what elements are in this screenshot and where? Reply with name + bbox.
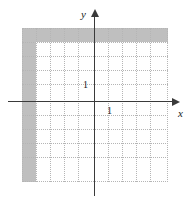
gridline-horizontal <box>22 157 168 158</box>
gridline-vertical <box>78 28 79 182</box>
x-axis-line <box>8 101 174 102</box>
x-axis-unit-tick-label: 1 <box>107 106 112 116</box>
y-axis-line <box>94 16 95 196</box>
gridline-horizontal <box>22 28 168 29</box>
gridline-vertical <box>22 28 23 182</box>
gridline-vertical <box>167 28 168 182</box>
x-axis-arrowhead-icon <box>172 98 180 106</box>
gridline-horizontal <box>22 42 168 43</box>
gridline-vertical <box>136 28 137 182</box>
y-axis-arrowhead-icon <box>91 9 99 17</box>
gridline-horizontal <box>22 56 168 57</box>
gridline-horizontal <box>22 84 168 85</box>
gridline-horizontal <box>22 181 168 182</box>
gridline-horizontal <box>22 143 168 144</box>
coordinate-plane-figure: y x 1 1 <box>0 0 191 204</box>
gridline-vertical <box>64 28 65 182</box>
gridline-horizontal <box>22 70 168 71</box>
gridline-vertical <box>50 28 51 182</box>
gridline-horizontal <box>22 129 168 130</box>
gridline-vertical <box>150 28 151 182</box>
y-axis-label: y <box>81 9 86 20</box>
grid-background <box>22 28 168 182</box>
y-axis-unit-tick-label: 1 <box>83 80 88 90</box>
gridline-horizontal <box>22 115 168 116</box>
gridline-vertical <box>36 28 37 182</box>
x-axis-label: x <box>178 108 183 119</box>
gridline-vertical <box>122 28 123 182</box>
